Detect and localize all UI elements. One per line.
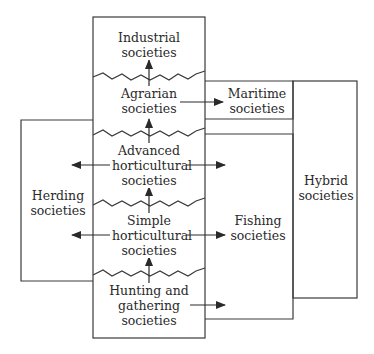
diagram-canvas: Industrial societies Agrarian societies … xyxy=(0,0,374,354)
label-hybrid-societies: Hybrid societies xyxy=(296,173,356,203)
label-simple-horticultural-societies: Simple horticultural societies xyxy=(112,213,186,258)
label-fishing-societies: Fishing societies xyxy=(226,213,290,243)
label-maritime-societies: Maritime societies xyxy=(222,86,292,116)
label-industrial-societies: Industrial societies xyxy=(110,30,188,60)
label-advanced-horticultural-societies: Advanced horticultural societies xyxy=(112,143,186,188)
label-hunting-gathering-societies: Hunting and gathering societies xyxy=(108,283,190,328)
label-agrarian-societies: Agrarian societies xyxy=(118,86,180,116)
label-herding-societies: Herding societies xyxy=(27,188,89,218)
